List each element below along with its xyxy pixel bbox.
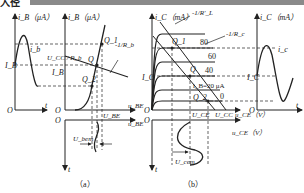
- svg-text:Q_2: Q_2: [193, 93, 207, 102]
- svg-text:0: 0: [220, 92, 224, 101]
- caption-b: （b）: [183, 180, 203, 189]
- svg-text:-1/R_c: -1/R_c: [226, 30, 246, 38]
- svg-text:u_BE: u_BE: [128, 120, 144, 128]
- svg-text:Q_2: Q_2: [82, 75, 96, 84]
- svg-text:U_CE: U_CE: [192, 111, 210, 119]
- svg-text:t: t: [155, 165, 158, 174]
- svg-text:60: 60: [208, 52, 216, 61]
- svg-text:Q: Q: [88, 55, 94, 64]
- svg-text:I_B: I_B: [4, 61, 17, 70]
- svg-text:O: O: [55, 116, 61, 125]
- svg-text:40: 40: [205, 66, 213, 75]
- svg-text:i_b: i_b: [30, 45, 40, 54]
- transistor-diagram: i_B（μA） i_B（μA） I_B i_b O t O U_CC / R_b…: [0, 0, 304, 193]
- svg-text:U_cem: U_cem: [175, 158, 195, 166]
- svg-text:O: O: [144, 106, 150, 115]
- caption-a: （a）: [75, 180, 95, 189]
- ib-axis-label: i_B（μA）: [68, 13, 104, 22]
- svg-text:I_B: I_B: [51, 68, 64, 77]
- svg-text:i_c: i_c: [278, 45, 288, 54]
- svg-text:i_C（mA）: i_C（mA）: [260, 13, 298, 22]
- svg-text:U_BE: U_BE: [103, 112, 121, 120]
- svg-text:Q_1: Q_1: [172, 37, 186, 46]
- svg-text:I_C: I_C: [246, 73, 260, 82]
- svg-text:u_BE: u_BE: [128, 102, 144, 110]
- svg-text:i_C（mA）: i_C（mA）: [155, 13, 193, 22]
- svg-text:U_CC: U_CC: [215, 111, 233, 119]
- svg-text:U_CC / R_b: U_CC / R_b: [47, 54, 82, 62]
- svg-text:Q_1: Q_1: [104, 36, 118, 45]
- svg-text:Q: Q: [190, 65, 196, 74]
- svg-text:I_C: I_C: [141, 73, 155, 82]
- svg-text:O: O: [7, 106, 13, 115]
- svg-text:u_CE（V）: u_CE（V）: [232, 129, 266, 137]
- svg-text:U_bem: U_bem: [73, 135, 93, 143]
- svg-text:O: O: [55, 106, 61, 115]
- svg-text:t: t: [68, 165, 71, 174]
- svg-text:O: O: [249, 106, 255, 115]
- ib-sine-curve: [15, 35, 38, 86]
- svg-text:80: 80: [200, 38, 208, 47]
- svg-text:-1/R_b: -1/R_b: [115, 41, 135, 49]
- svg-text:-1/R'_L: -1/R'_L: [192, 9, 213, 17]
- svg-text:i_B=20 μA: i_B=20 μA: [193, 82, 225, 90]
- svg-text:O: O: [144, 116, 150, 125]
- ib-axis-label-left: i_B（μA）: [18, 13, 54, 22]
- ube-sine-curve: [94, 122, 98, 152]
- svg-text:t: t: [296, 101, 299, 110]
- svg-text:t: t: [45, 101, 48, 110]
